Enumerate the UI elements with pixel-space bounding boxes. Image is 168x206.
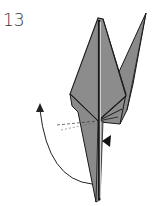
origami-diagram	[0, 0, 168, 206]
center-crease	[99, 20, 100, 200]
push-arrow	[102, 135, 111, 147]
